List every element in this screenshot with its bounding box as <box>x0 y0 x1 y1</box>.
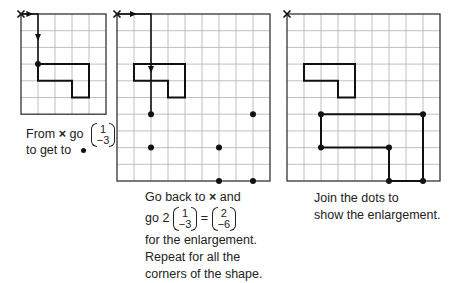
dot-icon <box>81 148 86 153</box>
caption-text: Go back to <box>145 190 205 204</box>
dot-icon <box>216 145 222 151</box>
vector-bottom: −3 <box>97 135 110 146</box>
dot-icon <box>318 145 324 151</box>
dot-icon <box>318 111 324 117</box>
vector-path <box>21 14 38 64</box>
arrow-down-icon <box>148 66 154 73</box>
caption-text: go <box>69 127 83 141</box>
left-caption: From × go 1 −3 to get to <box>26 124 115 159</box>
caption-text: for the enlargement. <box>145 232 262 249</box>
dot-icon <box>420 111 426 117</box>
vector-1-minus3: 1 −3 <box>173 208 198 230</box>
equals-sign: = <box>201 211 208 225</box>
middle-caption: Go back to × and go 2 1 −3 = 2 −6 for th… <box>145 189 262 283</box>
cross-icon: × <box>59 127 66 141</box>
caption-text: Join the dots to <box>314 190 440 207</box>
caption-text: go 2 <box>145 211 169 225</box>
caption-text: to get to <box>26 143 71 157</box>
dot-icon <box>386 178 392 184</box>
caption-text: Repeat for all the <box>145 249 262 266</box>
dot-icon <box>250 178 256 184</box>
vector-2-minus6: 2 −6 <box>212 208 237 230</box>
dot-icon <box>250 111 256 117</box>
caption-text: and <box>220 190 241 204</box>
dot-icon <box>420 178 426 184</box>
right-caption: Join the dots to show the enlargement. <box>314 190 440 224</box>
caption-text: show the enlargement. <box>314 207 440 224</box>
arrow-down-icon <box>35 34 41 41</box>
arrow-right-icon <box>26 11 33 17</box>
vector-1-minus3: 1 −3 <box>91 124 116 146</box>
dot-icon <box>216 178 222 184</box>
vector-bottom: −6 <box>218 219 231 230</box>
dot-icon <box>386 145 392 151</box>
dot-icon <box>148 111 154 117</box>
vector-bottom: −3 <box>179 219 192 230</box>
caption-text: corners of the shape. <box>145 266 262 283</box>
dot-icon <box>35 61 41 67</box>
caption-text: From <box>26 127 55 141</box>
dot-icon <box>148 145 154 151</box>
cross-icon: × <box>209 190 216 204</box>
arrow-right-icon <box>130 11 137 17</box>
